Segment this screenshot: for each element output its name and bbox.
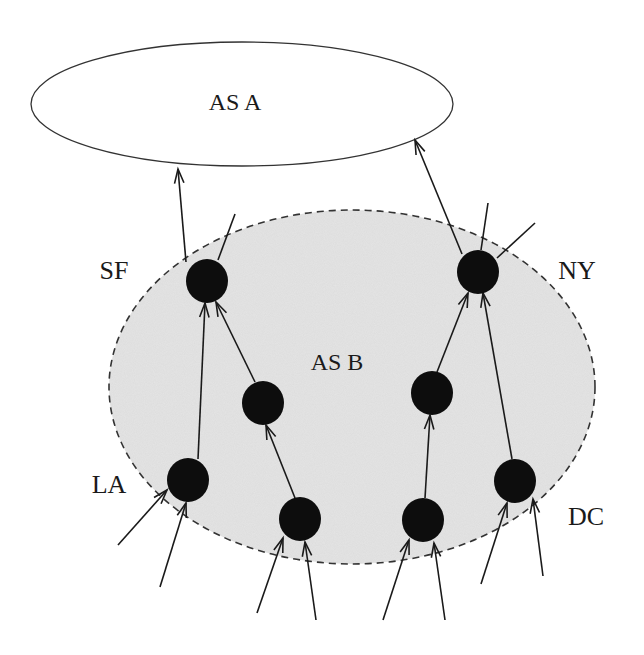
edge-external-to-dc <box>530 499 543 576</box>
as-b-label: AS B <box>311 349 364 375</box>
router-node-mid-left <box>242 381 284 425</box>
router-node-mid-right <box>411 371 453 415</box>
as-b-texture <box>109 210 595 564</box>
router-node-dc <box>494 459 536 503</box>
edge-external-to-bottom-right <box>431 543 445 620</box>
router-node-bottom-left <box>279 497 321 541</box>
edge-external-to-la <box>160 503 186 587</box>
region-as-a: AS A <box>31 42 453 166</box>
as-routing-diagram: AS B AS A SFNYLADC <box>0 0 644 655</box>
edge-sf-to-as-a <box>175 169 186 262</box>
edge-ny-to-external-2 <box>497 223 535 258</box>
node-label-la: LA <box>92 470 127 499</box>
router-node-ny <box>457 250 499 294</box>
node-label-dc: DC <box>568 502 604 531</box>
node-label-ny: NY <box>558 256 596 285</box>
node-label-sf: SF <box>100 256 129 285</box>
router-node-sf <box>186 259 228 303</box>
router-node-bottom-right <box>402 498 444 542</box>
as-a-label: AS A <box>209 89 262 115</box>
region-as-b: AS B <box>109 210 595 564</box>
router-node-la <box>167 458 209 502</box>
